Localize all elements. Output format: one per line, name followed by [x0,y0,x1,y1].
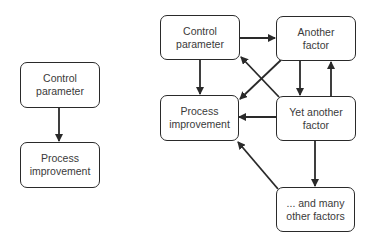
edge-many-to-process [238,142,278,189]
node-label: Process improvement [169,105,230,131]
edge-yetanother-to-control [241,57,279,97]
node-control-parameter: Control parameter [160,15,240,60]
node-yet-another-factor: Yet another factor [276,96,356,141]
node-label: Process improvement [30,152,91,178]
node-another-factor: Another factor [276,16,356,61]
node-process-improvement: Process improvement [160,95,239,141]
diagram-canvas: Control parameter Process improvement Co… [0,0,374,241]
node-label: Control parameter [36,72,84,98]
node-left-control-parameter: Control parameter [20,62,100,108]
node-label: ... and many other factors [286,197,344,223]
node-label: Control parameter [176,25,224,51]
node-many-other-factors: ... and many other factors [276,187,355,232]
node-label: Another factor [298,26,335,52]
node-label: Yet another factor [289,106,342,132]
node-left-process-improvement: Process improvement [20,142,100,188]
